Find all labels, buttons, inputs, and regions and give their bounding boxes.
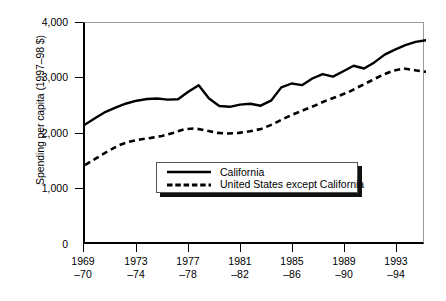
y-tick-label-2000: 2,000: [8, 128, 68, 138]
y-tick-label-1000: 1,000: [8, 183, 68, 193]
x-tick-label-1969-line1: 1969: [71, 255, 94, 267]
x-tick-label-1969-line2: –70: [53, 268, 113, 281]
y-tick-label-4000: 4,000: [8, 17, 68, 27]
x-tick-label-1981: 1981 –82: [210, 255, 270, 280]
y-axis-title: Spending per capita (1997–98 $): [34, 10, 46, 210]
legend-swatch-solid-line-icon: [166, 167, 212, 177]
x-tick-label-1977-line2: –78: [158, 268, 218, 281]
y-tick-4000: [75, 22, 83, 23]
legend-item-california: California: [157, 166, 357, 179]
legend-swatch-dashed-line-icon: [166, 180, 212, 190]
series-canvas: [85, 23, 426, 245]
x-tick-label-1973-line1: 1973: [124, 255, 147, 267]
x-tick-label-1981-line2: –82: [210, 268, 270, 281]
plot-area: [83, 22, 424, 244]
y-tick-3000: [75, 77, 83, 78]
x-tick-label-1989-line1: 1989: [332, 255, 355, 267]
legend-label-california: California: [220, 167, 264, 178]
x-tick-label-1977: 1977 –78: [158, 255, 218, 280]
x-tick-1989: [344, 244, 345, 252]
y-tick-label-0: 0: [8, 239, 68, 249]
spending-per-capita-line-chart: Spending per capita (1997–98 $) 4,000 3,…: [0, 0, 446, 301]
y-tick-label-3000: 3,000: [8, 72, 68, 82]
x-tick-label-1993: 1993 –94: [366, 255, 426, 280]
x-tick-label-1973-line2: –74: [106, 268, 166, 281]
y-tick-2000: [75, 133, 83, 134]
legend-item-united-states-except-california: United States except California: [157, 179, 357, 192]
x-tick-1993: [396, 244, 397, 252]
x-tick-label-1977-line1: 1977: [176, 255, 199, 267]
x-tick-label-1985-line1: 1985: [280, 255, 303, 267]
x-tick-label-1973: 1973 –74: [106, 255, 166, 280]
x-tick-label-1993-line1: 1993: [384, 255, 407, 267]
series-line-california: [85, 40, 426, 124]
x-tick-label-1985: 1985 –86: [262, 255, 322, 280]
x-tick-label-1989: 1989 –90: [314, 255, 374, 280]
x-tick-1985: [292, 244, 293, 252]
x-tick-1977: [188, 244, 189, 252]
x-tick-1973: [136, 244, 137, 252]
x-tick-label-1989-line2: –90: [314, 268, 374, 281]
series-line-united-states-except-california: [85, 69, 426, 166]
legend-label-united-states-except-california: United States except California: [220, 179, 364, 190]
x-tick-1981: [240, 244, 241, 252]
x-tick-label-1993-line2: –94: [366, 268, 426, 281]
x-tick-label-1981-line1: 1981: [228, 255, 251, 267]
legend: California United States except Californ…: [156, 162, 358, 193]
x-tick-label-1985-line2: –86: [262, 268, 322, 281]
x-tick-1969: [83, 244, 84, 252]
y-tick-1000: [75, 188, 83, 189]
x-tick-label-1969: 1969 –70: [53, 255, 113, 280]
